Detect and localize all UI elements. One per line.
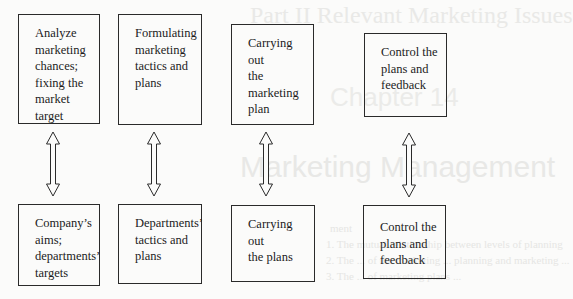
box-analyze-market: Analyze marketing chances; fixing the ma… [18, 14, 100, 124]
box-label: Carrying out the marketing plan [248, 35, 305, 118]
box-departments-tactics: Departments’ tactics and plans [118, 204, 202, 284]
box-formulating-tactics: Formulating marketing tactics and plans [118, 14, 202, 125]
box-carrying-marketing-plan: Carrying out the marketing plan [231, 24, 314, 125]
box-label: Analyze marketing chances; fixing the ma… [35, 25, 91, 124]
ghost-title-text: Marketing Management [240, 150, 555, 184]
box-label: Control the plans and feedback [380, 219, 437, 269]
double-arrow-icon [258, 131, 274, 197]
box-label: Formulating marketing tactics and plans [135, 25, 193, 91]
double-arrow-icon [45, 131, 61, 197]
double-arrow-icon [401, 132, 417, 198]
box-label: Carrying out the plans [248, 216, 306, 266]
box-label: Departments’ tactics and plans [135, 215, 193, 265]
box-control-top: Control the plans and feedback [364, 33, 447, 117]
box-label: Company’s aims; departments’ targets [35, 215, 91, 281]
box-company-aims: Company’s aims; departments’ targets [18, 204, 100, 286]
double-arrow-icon [146, 131, 162, 197]
box-control-bottom: Control the plans and feedback [363, 205, 446, 279]
box-carrying-plans: Carrying out the plans [231, 205, 315, 282]
box-label: Control the plans and feedback [381, 44, 438, 94]
ghost-line-0: ment [330, 222, 352, 234]
